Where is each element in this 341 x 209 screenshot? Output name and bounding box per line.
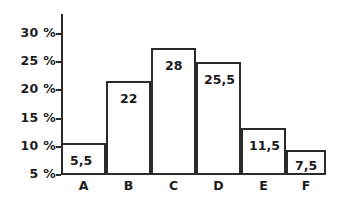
x-tick-label-f: F	[286, 180, 326, 193]
x-tick-label-a: A	[61, 180, 106, 193]
x-tick-label-e: E	[241, 180, 286, 193]
x-tick-label-b: B	[106, 180, 151, 193]
x-tick-label-c: C	[151, 180, 196, 193]
x-axis: A B C D E F	[0, 0, 341, 209]
x-tick-label-d: D	[196, 180, 241, 193]
bar-chart-figure: 30 % 25 % 20 % 15 % 10 % 5 % 5,5 22 28 2…	[0, 0, 341, 209]
